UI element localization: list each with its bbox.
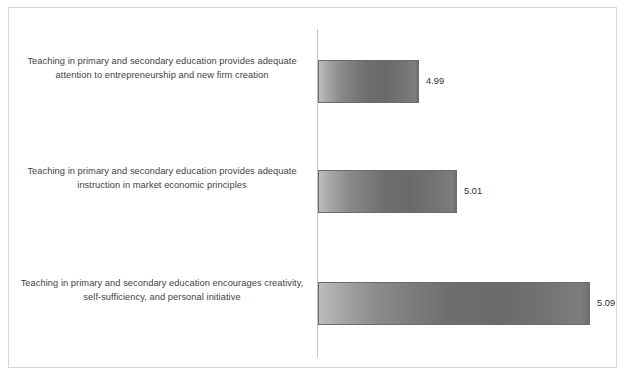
- category-label-3: Teaching in primary and secondary educat…: [17, 276, 307, 304]
- bar-value-label-3: 5.09: [597, 298, 615, 309]
- bar-value-label-2: 5.01: [464, 186, 482, 197]
- bar-2[interactable]: [318, 170, 457, 213]
- bar-3[interactable]: [318, 282, 590, 325]
- bar-1[interactable]: [318, 60, 419, 103]
- bar-value-label-1: 4.99: [426, 76, 444, 87]
- plot-area: Teaching in primary and secondary educat…: [9, 8, 616, 367]
- category-label-1: Teaching in primary and secondary educat…: [17, 54, 307, 82]
- chart-root: Teaching in primary and secondary educat…: [0, 0, 629, 386]
- category-label-2: Teaching in primary and secondary educat…: [17, 164, 307, 192]
- chart-frame: Teaching in primary and secondary educat…: [8, 7, 617, 368]
